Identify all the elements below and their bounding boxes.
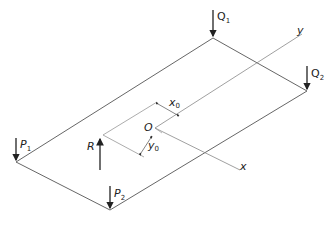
label-p1: P1: [20, 138, 31, 153]
label-r: R: [87, 140, 95, 153]
label-x0: x0: [168, 96, 180, 110]
label-x-axis: x: [239, 160, 247, 173]
label-q2: Q2: [311, 67, 324, 82]
label-origin: O: [144, 121, 153, 134]
label-y-axis: y: [296, 24, 304, 37]
plate-diagram: Q1 Q2 P1 P2 R O x0 y0 x y: [0, 0, 334, 225]
label-y0: y0: [147, 139, 159, 153]
x-axis-line: [155, 128, 240, 170]
label-q1: Q1: [217, 10, 230, 25]
label-p2: P2: [114, 187, 125, 202]
y-axis-line: [155, 34, 302, 128]
